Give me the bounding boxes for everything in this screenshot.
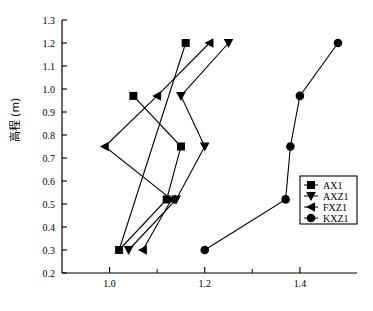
- legend-label-ax1: AX1: [323, 180, 342, 191]
- y-tick-label: 1.1: [43, 61, 56, 72]
- data-point-kxz1: [286, 142, 295, 151]
- y-tick-label: 0.7: [43, 153, 56, 164]
- y-tick-label: 1.3: [43, 15, 56, 26]
- x-tick-label: 1.2: [198, 278, 211, 289]
- data-point-kxz1: [296, 92, 305, 101]
- legend-marker-ax1: [307, 181, 315, 189]
- data-point-ax1: [182, 39, 190, 47]
- y-tick-label: 0.5: [43, 199, 56, 210]
- y-tick-label: 0.9: [43, 107, 56, 118]
- x-tick-label: 1.4: [294, 278, 307, 289]
- data-point-ax1: [115, 246, 123, 254]
- y-tick-label: 0.2: [43, 268, 56, 279]
- data-point-axz1: [200, 143, 210, 152]
- legend-marker-kxz1: [307, 214, 316, 223]
- data-point-kxz1: [334, 39, 343, 48]
- legend-label-fxz1: FXZ1: [323, 202, 347, 213]
- legend-label-axz1: AXZ1: [323, 191, 349, 202]
- data-point-axz1: [124, 246, 134, 255]
- legend-label-kxz1: KXZ1: [323, 213, 349, 224]
- data-point-ax1: [177, 143, 185, 151]
- series-line-ax1: [119, 43, 186, 250]
- y-tick-label: 1.2: [43, 38, 56, 49]
- data-point-kxz1: [200, 246, 209, 255]
- data-point-kxz1: [281, 195, 290, 204]
- y-tick-label: 0.3: [43, 245, 56, 256]
- y-tick-label: 1.0: [43, 84, 56, 95]
- y-tick-label: 0.6: [43, 176, 56, 187]
- data-point-fxz1: [100, 142, 109, 152]
- chart-figure: 0.20.30.40.50.60.70.80.91.01.11.21.31.01…: [0, 0, 373, 311]
- data-point-fxz1: [138, 245, 147, 255]
- data-point-axz1: [176, 92, 186, 101]
- chart-plot-area: 0.20.30.40.50.60.70.80.91.01.11.21.31.01…: [0, 0, 373, 311]
- y-axis-title: 高程 (m): [6, 90, 22, 150]
- y-tick-label: 0.4: [43, 222, 56, 233]
- y-tick-label: 0.8: [43, 130, 56, 141]
- x-tick-label: 1.0: [103, 278, 116, 289]
- data-point-ax1: [129, 92, 137, 100]
